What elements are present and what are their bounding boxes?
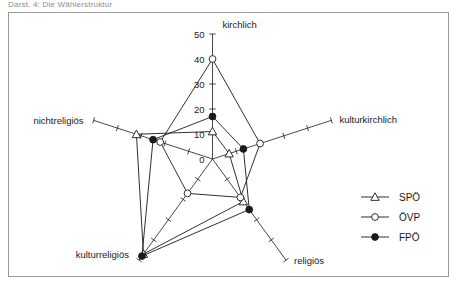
axis-tick bbox=[283, 258, 288, 262]
data-point bbox=[246, 206, 253, 213]
data-point bbox=[208, 127, 216, 135]
data-point bbox=[257, 140, 264, 147]
data-point bbox=[184, 190, 191, 197]
radial-tick-label: 10 bbox=[194, 129, 205, 140]
legend-label: SPÖ bbox=[399, 192, 420, 203]
axis-tick bbox=[181, 198, 186, 202]
chart-legend: SPÖÖVPFPÖ bbox=[361, 192, 420, 243]
axis-tick bbox=[269, 238, 274, 242]
radar-chart: 01020304050 kirchlichkulturkirchlichreli… bbox=[9, 13, 448, 276]
radial-tick-label: 50 bbox=[194, 29, 205, 40]
axis-label-nichtreligioes: nichtreligiös bbox=[33, 115, 83, 126]
axis-label-kulturreligioes: kulturreligiös bbox=[76, 249, 130, 260]
chart-frame: 01020304050 kirchlichkulturkirchlichreli… bbox=[8, 12, 449, 277]
axis-tick bbox=[195, 177, 200, 181]
radial-tick-label: 0 bbox=[199, 154, 204, 165]
legend-label: FPÖ bbox=[399, 232, 420, 243]
axis-tick bbox=[166, 218, 171, 222]
legend-item-FPÖ[interactable]: FPÖ bbox=[361, 232, 420, 243]
legend-item-SPÖ[interactable]: SPÖ bbox=[361, 192, 420, 203]
data-point bbox=[225, 149, 233, 157]
legend-item-ÖVP[interactable]: ÖVP bbox=[361, 212, 420, 223]
series-ÖVP bbox=[157, 56, 264, 201]
legend-label: ÖVP bbox=[399, 212, 420, 223]
axis-tick bbox=[225, 177, 230, 181]
figure-caption: Darst. 4: Die Wählerstruktur bbox=[8, 0, 112, 9]
axis-tick bbox=[151, 238, 156, 242]
data-point bbox=[150, 136, 157, 143]
axes-group bbox=[93, 34, 333, 262]
axis-labels-group: kirchlichkulturkirchlichreligiöskulturre… bbox=[33, 19, 396, 266]
legend-marker bbox=[372, 234, 379, 241]
axis-label-kulturkirchlich: kulturkirchlich bbox=[339, 114, 397, 125]
data-point bbox=[237, 194, 244, 201]
data-point bbox=[240, 146, 247, 153]
series-outline bbox=[160, 59, 260, 197]
data-point bbox=[157, 139, 164, 146]
radial-tick-label: 20 bbox=[194, 104, 205, 115]
data-point bbox=[209, 113, 216, 120]
legend-marker bbox=[372, 214, 379, 221]
axis-label-religioes: religiös bbox=[294, 255, 324, 266]
data-point bbox=[209, 56, 216, 63]
axis-label-kirchlich: kirchlich bbox=[223, 19, 257, 30]
axis-tick bbox=[254, 218, 259, 222]
data-point bbox=[139, 253, 146, 260]
radial-tick-labels: 01020304050 bbox=[194, 29, 205, 165]
radial-tick-label: 40 bbox=[194, 54, 205, 65]
